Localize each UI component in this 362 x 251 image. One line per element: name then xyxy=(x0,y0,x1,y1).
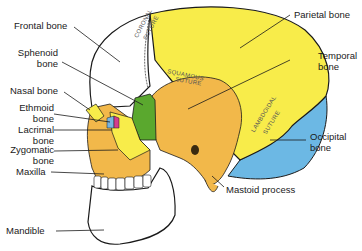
sphenoid-bone-label: Sphenoid bone xyxy=(12,48,58,69)
ethmoid-text-2: bone xyxy=(8,114,54,125)
ethmoid-bone-label: Ethmoid bone xyxy=(8,103,54,124)
ethmoid-text-1: Ethmoid xyxy=(8,103,54,114)
lacrimal-text-1: Lacrimal xyxy=(4,125,54,136)
sphenoid-text-2: bone xyxy=(12,59,58,70)
lacrimal-bone xyxy=(114,116,119,128)
zygomatic-text-2: bone xyxy=(0,156,54,167)
temporal-text-2: bone xyxy=(318,62,357,73)
occipital-text-2: bone xyxy=(310,143,346,154)
zygomatic-text-1: Zygomatic xyxy=(0,145,54,156)
temporal-bone xyxy=(152,77,242,185)
zygomatic-bone-label: Zygomatic bone xyxy=(0,145,54,166)
occipital-text-1: Occipital xyxy=(310,132,346,143)
mandible-label: Mandible xyxy=(6,226,45,237)
frontal-bone-label: Frontal bone xyxy=(14,21,67,32)
occipital-bone-label: Occipital bone xyxy=(310,132,346,153)
mastoid-process-label: Mastoid process xyxy=(226,185,295,196)
temporal-text-1: Temporal xyxy=(318,51,357,62)
parietal-bone-label: Parietal bone xyxy=(294,10,350,21)
sphenoid-text-1: Sphenoid xyxy=(12,48,58,59)
skull-diagram xyxy=(0,0,362,251)
nasal-bone-label: Nasal bone xyxy=(10,86,58,97)
temporal-bone-label: Temporal bone xyxy=(318,51,357,72)
lacrimal-bone-label: Lacrimal bone xyxy=(4,125,54,146)
maxilla-label: Maxilla xyxy=(16,167,46,178)
